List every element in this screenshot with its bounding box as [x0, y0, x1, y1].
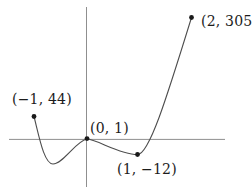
data-point-0-1 — [85, 136, 90, 141]
data-point-2-305 — [189, 15, 194, 20]
point-label-2-305: (2, 305) — [201, 13, 252, 29]
data-point-neg1-44 — [32, 114, 37, 119]
point-label-neg1-44: (−1, 44) — [12, 91, 72, 107]
plot-canvas: (−1, 44) (0, 1) (1, −12) (2, 305) — [0, 0, 252, 195]
point-label-1-neg12: (1, −12) — [117, 161, 177, 177]
function-graph-figure: (−1, 44) (0, 1) (1, −12) (2, 305) — [0, 0, 252, 195]
data-point-1-neg12 — [135, 152, 140, 157]
point-label-0-1: (0, 1) — [90, 120, 129, 136]
